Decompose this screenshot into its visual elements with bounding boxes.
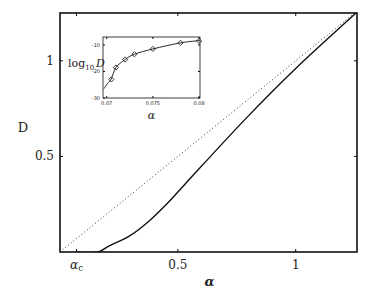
main-x-tick-label: 0.5 (168, 258, 187, 272)
inset-x-tick-label: 0.08 (194, 100, 205, 106)
inset-y-tick-label: -30 (92, 95, 100, 101)
main-x-tick-label: 1 (292, 258, 300, 272)
inset-x-axis-label: α (148, 109, 156, 122)
inset-x-tick-label: 0.075 (146, 100, 160, 106)
chart: αc0.510.51αD 0.070.0750.08-10-20-30αlog1… (0, 0, 369, 301)
main-y-tick-label: 1 (46, 54, 54, 68)
main-y-tick-label: 0.5 (35, 149, 54, 163)
inset-frame (103, 37, 200, 98)
main-x-axis-label: α (204, 274, 214, 289)
inset-x-tick-label: 0.07 (101, 100, 112, 106)
main-y-axis-label: D (18, 120, 28, 135)
main-x-tick-label: αc (70, 258, 83, 273)
inset-y-tick-label: -10 (92, 42, 100, 48)
